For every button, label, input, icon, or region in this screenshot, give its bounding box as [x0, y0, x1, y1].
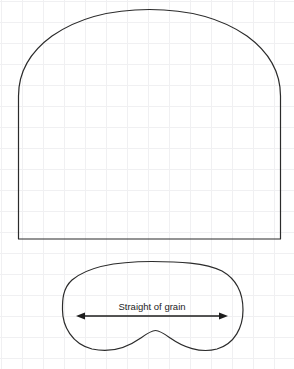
arched-body-piece[interactable] [19, 10, 281, 240]
pattern-canvas: Straight of grain [0, 0, 294, 369]
pattern-sheet: Straight of grain [0, 0, 294, 369]
straight-of-grain-label: Straight of grain [118, 301, 185, 312]
